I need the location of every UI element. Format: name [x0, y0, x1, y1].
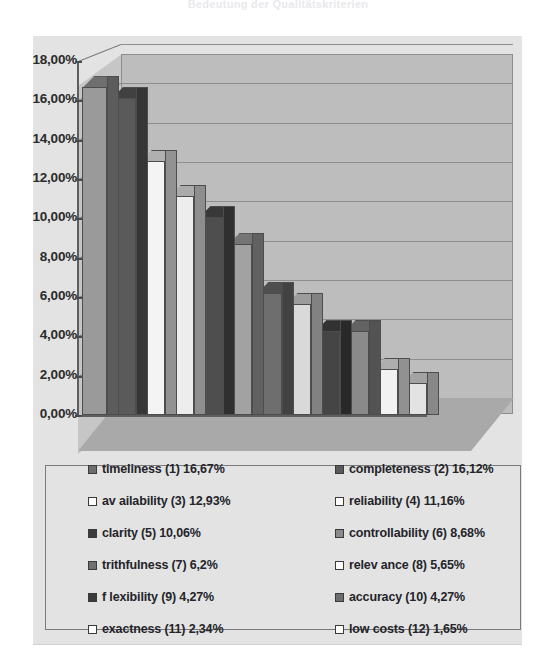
- bar-front-face: [82, 87, 107, 415]
- bar-side-face: [223, 206, 235, 415]
- filled-square-icon: [335, 465, 344, 474]
- legend-item-label: exactness (11) 2,34%: [102, 622, 223, 636]
- legend-item-label: reliability (4) 11,16%: [349, 494, 465, 508]
- legend-item[interactable]: completeness (2) 16,12%: [283, 453, 520, 485]
- bar-side-face: [282, 282, 294, 415]
- legend-item[interactable]: exactness (11) 2,34%: [46, 613, 283, 645]
- bar-side-face: [194, 185, 206, 415]
- bar-side-face: [107, 76, 119, 415]
- bar-side-face: [136, 87, 148, 415]
- open-square-icon: [335, 625, 344, 634]
- bar-side-face: [398, 358, 410, 415]
- legend-item-label: f lexibility (9) 4,27%: [102, 590, 214, 604]
- chart-object: 0,00%2,00%4,00%6,00%8,00%10,00%12,00%14,…: [33, 36, 522, 644]
- filled-square-icon: [88, 593, 97, 602]
- legend-item-label: clarity (5) 10,06%: [102, 526, 201, 540]
- legend-item-label: controllability (6) 8,68%: [349, 526, 485, 540]
- filled-square-icon: [335, 529, 344, 538]
- legend-item-label: low costs (12) 1,65%: [349, 622, 468, 636]
- filled-square-icon: [335, 593, 344, 602]
- legend: timeliness (1) 16,67%completeness (2) 16…: [45, 465, 521, 630]
- legend-item[interactable]: timeliness (1) 16,67%: [46, 453, 283, 485]
- legend-item[interactable]: accuracy (10) 4,27%: [283, 581, 520, 613]
- legend-item-label: completeness (2) 16,12%: [349, 462, 494, 476]
- bar-side-face: [369, 320, 381, 415]
- legend-grid: timeliness (1) 16,67%completeness (2) 16…: [46, 466, 520, 629]
- open-square-icon: [88, 497, 97, 506]
- open-square-icon: [335, 497, 344, 506]
- legend-item[interactable]: clarity (5) 10,06%: [46, 517, 283, 549]
- bar: [82, 87, 107, 415]
- legend-item[interactable]: trithfulness (7) 6,2%: [46, 549, 283, 581]
- filled-square-icon: [88, 529, 97, 538]
- bar-side-face: [340, 320, 352, 415]
- legend-item[interactable]: controllability (6) 8,68%: [283, 517, 520, 549]
- legend-item[interactable]: reliability (4) 11,16%: [283, 485, 520, 517]
- cut-off-title: Bedeutung der Qualitätskriterien: [0, 0, 556, 14]
- legend-item-label: timeliness (1) 16,67%: [102, 462, 225, 476]
- legend-item-label: av ailability (3) 12,93%: [102, 494, 230, 508]
- filled-square-icon: [88, 465, 97, 474]
- filled-square-icon: [88, 561, 97, 570]
- legend-item-label: accuracy (10) 4,27%: [349, 590, 465, 604]
- open-square-icon: [335, 561, 344, 570]
- legend-item[interactable]: av ailability (3) 12,93%: [46, 485, 283, 517]
- open-square-icon: [88, 625, 97, 634]
- bar-side-face: [165, 150, 177, 415]
- bar-side-face: [311, 293, 323, 415]
- legend-item[interactable]: relev ance (8) 5,65%: [283, 549, 520, 581]
- bar-series: [33, 36, 522, 456]
- bar-side-face: [252, 233, 264, 415]
- legend-item[interactable]: low costs (12) 1,65%: [283, 613, 520, 645]
- legend-item-label: relev ance (8) 5,65%: [349, 558, 465, 572]
- legend-item[interactable]: f lexibility (9) 4,27%: [46, 581, 283, 613]
- plot-area: 0,00%2,00%4,00%6,00%8,00%10,00%12,00%14,…: [33, 36, 522, 456]
- bar-side-face: [427, 372, 439, 415]
- legend-item-label: trithfulness (7) 6,2%: [102, 558, 218, 572]
